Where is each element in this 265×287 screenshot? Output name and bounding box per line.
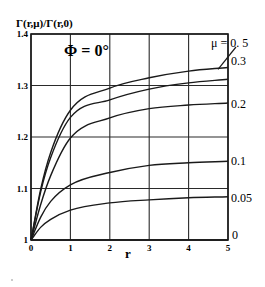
series-label: 0	[232, 228, 238, 242]
grid-lines	[31, 34, 228, 240]
y-tick-label: 1.4	[17, 29, 29, 39]
curve-mu-0-2	[31, 103, 228, 240]
y-tick-label: 1.2	[17, 132, 29, 142]
series-label: 0.1	[231, 154, 246, 168]
y-tick-label: 1	[24, 235, 29, 245]
series-label: μ = 0. 5	[211, 36, 248, 50]
chart: 11.11.21.31.4 012345 μ = 0. 50.30.20.10.…	[0, 0, 265, 287]
speck-dot	[11, 279, 13, 281]
series-label: 0.3	[231, 54, 246, 68]
curve-mu-0-3	[31, 79, 228, 240]
series-label: 0.2	[231, 97, 246, 111]
x-tick-label: 2	[108, 243, 113, 253]
x-tick-label: 1	[68, 243, 73, 253]
phi-annotation: Φ = 0°	[64, 42, 109, 59]
series-label: 0.05	[231, 191, 252, 205]
x-axis-label: r	[125, 246, 131, 261]
curve-mu-0-05	[31, 197, 228, 240]
x-tick-label: 4	[186, 243, 191, 253]
y-tick-labels: 11.11.21.31.4	[17, 29, 29, 245]
x-tick-label: 5	[226, 243, 231, 253]
y-tick-label: 1.1	[17, 184, 29, 194]
x-tick-label: 0	[29, 243, 34, 253]
series-labels: μ = 0. 50.30.20.10.050	[211, 36, 252, 242]
y-tick-label: 1.3	[17, 81, 29, 91]
y-axis-label: Γ(r,μ)/Γ(r,0)	[16, 17, 73, 30]
x-tick-label: 3	[147, 243, 152, 253]
data-curves	[31, 47, 236, 240]
